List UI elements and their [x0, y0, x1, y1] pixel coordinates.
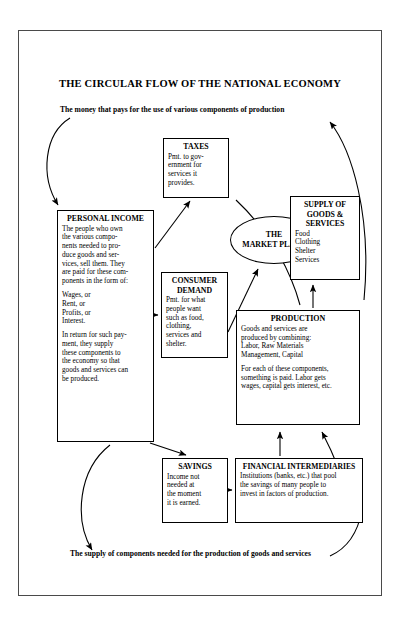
node-personal-income-body-3: In return for such pay- ment, they suppl… [62, 331, 149, 384]
node-consumer-demand-heading: CONSUMER DEMAND [166, 276, 223, 295]
diagram-page: THE CIRCULAR FLOW OF THE NATIONAL ECONOM… [0, 0, 400, 623]
node-supply-of-goods-services[interactable]: SUPPLY OF GOODS & SERVICES Food Clothing… [290, 196, 360, 280]
node-supply-body: Food Clothing Shelter Services [295, 230, 355, 265]
caption-supply-flow: The supply of components needed for the … [70, 549, 370, 558]
node-taxes-body: Pmt. to gov- ernment for services it pro… [168, 153, 224, 188]
node-personal-income-body-2: Wages, or Rent, or Profits, or Interest. [62, 291, 149, 326]
node-financial-heading: FINANCIAL INTERMEDIARIES [240, 462, 358, 471]
caption-money-flow: The money that pays for the use of vario… [60, 105, 360, 114]
node-production-body-2: For each of these components, something … [241, 365, 355, 391]
node-financial-body: Institutions (banks, etc.) that pool the… [240, 472, 358, 498]
node-consumer-demand[interactable]: CONSUMER DEMAND Pmt. for what people wan… [161, 272, 228, 358]
node-taxes[interactable]: TAXES Pmt. to gov- ernment for services … [163, 138, 229, 198]
node-consumer-demand-body: Pmt. for what people want such as food, … [166, 296, 223, 349]
node-savings-heading: SAVINGS [167, 462, 223, 472]
page-title: THE CIRCULAR FLOW OF THE NATIONAL ECONOM… [18, 78, 382, 89]
node-production-body-1: Goods and services are produced by combi… [241, 325, 355, 360]
node-financial-intermediaries[interactable]: FINANCIAL INTERMEDIARIES Institutions (b… [235, 458, 363, 523]
node-personal-income-body-1: The people who own the various compo- ne… [62, 225, 149, 286]
node-supply-heading: SUPPLY OF GOODS & SERVICES [295, 200, 355, 229]
node-personal-income-heading: PERSONAL INCOME [62, 214, 149, 224]
node-savings[interactable]: SAVINGS Income not needed at the moment … [162, 458, 228, 523]
node-production-heading: PRODUCTION [241, 314, 355, 324]
node-personal-income[interactable]: PERSONAL INCOME The people who own the v… [57, 210, 154, 442]
node-taxes-heading: TAXES [168, 142, 224, 152]
node-savings-body: Income not needed at the moment it is ea… [167, 473, 223, 508]
node-production[interactable]: PRODUCTION Goods and services are produc… [236, 310, 360, 425]
